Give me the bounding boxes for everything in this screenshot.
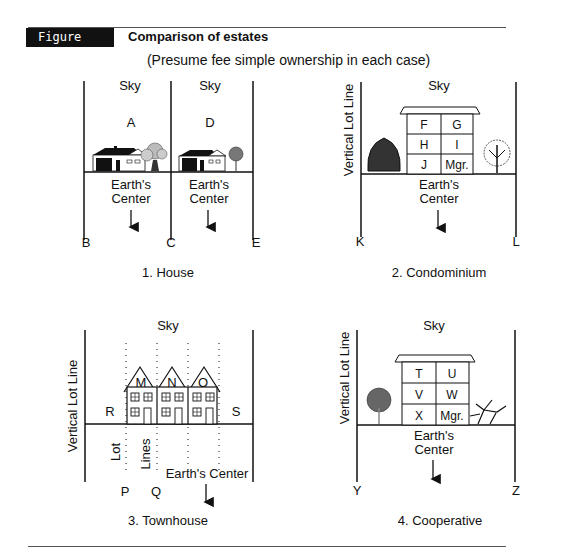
corner-label: E xyxy=(252,235,261,250)
earth-label: Earth's xyxy=(419,177,460,192)
bottom-rule xyxy=(28,546,506,547)
panel-caption: 1. House xyxy=(142,265,194,280)
panel-caption: 3. Townhouse xyxy=(128,513,208,528)
earth-label: Earth's xyxy=(111,177,152,192)
svg-text:N: N xyxy=(167,375,176,390)
corner-label: L xyxy=(512,234,519,249)
svg-text:V: V xyxy=(415,388,423,402)
lot-lines-label: Lines xyxy=(138,438,153,470)
svg-text:I: I xyxy=(455,138,458,152)
parcel-label-s: S xyxy=(232,404,241,419)
sky-label: Sky xyxy=(428,78,450,93)
svg-text:T: T xyxy=(415,367,423,381)
svg-text:H: H xyxy=(420,138,429,152)
sky-label: Sky xyxy=(157,318,179,333)
tree-icon xyxy=(368,138,400,171)
corner-label: B xyxy=(82,235,91,250)
earth-label: Center xyxy=(419,191,459,206)
svg-text:X: X xyxy=(415,409,423,423)
earth-label: Earth's xyxy=(414,428,455,443)
townhouse-row: M N O xyxy=(124,367,220,424)
parcel-label-d: D xyxy=(205,115,214,130)
earth-label: Earth's Center xyxy=(166,466,249,481)
parcel-label-a: A xyxy=(127,115,136,130)
corner-label: Y xyxy=(353,483,362,498)
svg-text:U: U xyxy=(448,367,457,381)
svg-text:Mgr.: Mgr. xyxy=(440,409,463,423)
vertical-lot-line-label: Vertical Lot Line xyxy=(65,360,80,453)
panel-townhouse: Sky Vertical Lot Line xyxy=(65,318,253,528)
tree-icon xyxy=(484,140,510,173)
sky-label: Sky xyxy=(423,318,445,333)
panel-cooperative: Sky Vertical Lot Line T U V W X Mgr. Ear… xyxy=(337,318,520,528)
earth-label: Earth's xyxy=(189,177,230,192)
svg-text:G: G xyxy=(452,118,461,132)
coop-building: T U V W X Mgr. xyxy=(395,355,475,425)
lot-lines-label: Lot xyxy=(108,443,123,461)
vertical-lot-line-label: Vertical Lot Line xyxy=(341,84,356,177)
shrub-icon xyxy=(470,400,506,424)
earth-label: Center xyxy=(189,191,229,206)
estates-diagram: Sky Sky A D xyxy=(0,0,577,557)
sky-label: Sky xyxy=(199,78,221,93)
panel-house: Sky Sky A D xyxy=(82,78,261,280)
corner-label: Q xyxy=(151,484,161,499)
panel-condominium: Sky Vertical Lot Line F G H I J Mgr. Ear… xyxy=(341,78,520,280)
earth-label: Center xyxy=(414,442,454,457)
panel-caption: 2. Condominium xyxy=(392,265,487,280)
svg-text:F: F xyxy=(420,118,427,132)
corner-label: Z xyxy=(512,483,520,498)
parcel-label-r: R xyxy=(105,404,114,419)
panel-caption: 4. Cooperative xyxy=(398,513,483,528)
tree-icon xyxy=(367,388,391,424)
svg-text:W: W xyxy=(446,388,458,402)
house-icon xyxy=(93,146,146,171)
corner-label: P xyxy=(121,484,130,499)
vertical-lot-line-label: Vertical Lot Line xyxy=(337,332,352,425)
svg-text:Mgr.: Mgr. xyxy=(445,158,468,172)
earth-label: Center xyxy=(111,191,151,206)
tree-icon xyxy=(229,147,243,171)
corner-label: C xyxy=(166,235,175,250)
sky-label: Sky xyxy=(119,78,141,93)
corner-label: K xyxy=(356,234,365,249)
svg-text:J: J xyxy=(421,158,427,172)
condo-building: F G H I J Mgr. xyxy=(400,107,480,174)
svg-text:O: O xyxy=(198,375,208,390)
svg-text:M: M xyxy=(136,375,147,390)
house-icon xyxy=(179,150,226,171)
